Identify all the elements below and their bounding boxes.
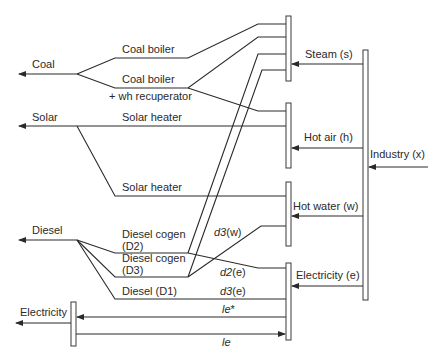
svg-text:d2(e): d2(e) bbox=[220, 266, 246, 278]
steam-label: Steam (s) bbox=[305, 48, 353, 60]
electricity-demand-label: Electricity (e) bbox=[296, 269, 360, 281]
coal-boiler-wh-label-2: + wh recuperator bbox=[109, 90, 192, 102]
d2e-var: d2 bbox=[220, 266, 232, 278]
coal-source-label: Coal bbox=[32, 58, 55, 70]
steam-bar bbox=[286, 16, 291, 81]
diesel-d1-label: Diesel (D1) bbox=[122, 285, 177, 297]
d3e-sub: (e) bbox=[232, 285, 245, 297]
solar-heater-1-label: Solar heater bbox=[122, 111, 182, 123]
svg-text:le*: le* bbox=[222, 303, 236, 315]
industry-bar bbox=[363, 50, 368, 300]
svg-text:d3(w): d3(w) bbox=[214, 226, 242, 238]
diesel-source-label: Diesel bbox=[32, 224, 63, 236]
solar-heater-2-label: Solar heater bbox=[122, 181, 182, 193]
grid-electricity-bar bbox=[71, 302, 76, 346]
coal-boiler-label: Coal boiler bbox=[122, 43, 175, 55]
energy-flow-diagram: Coal Coal boiler Coal boiler + wh recupe… bbox=[0, 0, 443, 362]
d3w-sub: (w) bbox=[226, 226, 241, 238]
le-star-sub: * bbox=[231, 303, 236, 315]
d3e-var: d3 bbox=[220, 285, 233, 297]
diesel-d2-steam-line bbox=[188, 54, 286, 253]
le-label: le bbox=[222, 336, 231, 348]
svg-text:d3(e): d3(e) bbox=[220, 285, 246, 297]
diesel-d3-steam-line bbox=[188, 70, 286, 277]
solar-source-label: Solar bbox=[32, 111, 58, 123]
coal-branch: Coal Coal boiler Coal boiler + wh recupe… bbox=[19, 24, 286, 111]
hot-water-bar bbox=[286, 182, 291, 246]
diesel-cogen-d3-label-2: (D3) bbox=[122, 264, 143, 276]
solar-branch: Solar Solar heater Solar heater bbox=[19, 111, 286, 196]
d2e-sub: (e) bbox=[232, 266, 245, 278]
grid-electricity-label: Electricity bbox=[20, 306, 68, 318]
diesel-cogen-d2-label-1: Diesel cogen bbox=[122, 228, 186, 240]
electricity-demand-bar bbox=[286, 263, 291, 340]
diesel-d1-line bbox=[77, 240, 286, 299]
hot-water-label: Hot water (w) bbox=[293, 200, 358, 212]
le-star-var: le bbox=[222, 303, 231, 315]
hot-air-bar bbox=[286, 103, 291, 168]
coal-boiler-wh-label-1: Coal boiler bbox=[122, 73, 175, 85]
coal-boiler-wh-hotair-line bbox=[188, 88, 286, 111]
flow-labels: d3(w) d2(e) d3(e) le* le bbox=[214, 226, 246, 348]
industry: Industry (x) Steam (s) Hot air (h) Hot w… bbox=[292, 48, 428, 300]
industry-label: Industry (x) bbox=[370, 148, 425, 160]
diesel-cogen-d3-label-1: Diesel cogen bbox=[122, 252, 186, 264]
diesel-cogen-d2-label-2: (D2) bbox=[122, 240, 143, 252]
demand-bars bbox=[286, 16, 291, 340]
d3w-var: d3 bbox=[214, 226, 227, 238]
grid-electricity: Electricity bbox=[16, 302, 286, 346]
hot-air-label: Hot air (h) bbox=[304, 131, 353, 143]
coal-boiler-line bbox=[77, 24, 286, 74]
